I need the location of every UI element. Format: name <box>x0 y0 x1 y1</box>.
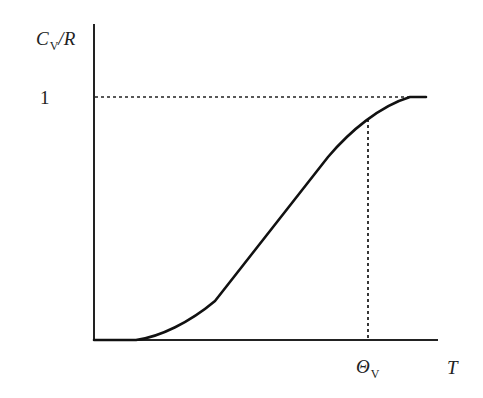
theta-v-label: ΘV <box>356 357 379 376</box>
x-axis-label: T <box>447 358 458 377</box>
theta-label-subscript: V <box>371 367 380 381</box>
y-axis-label-rest: /R <box>58 28 75 49</box>
y-axis-label: CV/R <box>36 29 75 48</box>
y-tick-label-one: 1 <box>40 88 50 107</box>
heat-capacity-chart <box>0 0 483 398</box>
y-axis-label-subscript: V <box>50 39 59 53</box>
theta-label-main: Θ <box>356 356 370 377</box>
y-axis-label-main: C <box>36 28 49 49</box>
heat-capacity-curve <box>94 97 426 340</box>
